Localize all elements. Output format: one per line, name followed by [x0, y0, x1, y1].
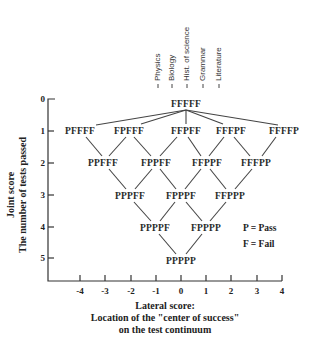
x-tick-neg4: -4	[76, 286, 84, 296]
node-PPFFF: PPFFF	[88, 158, 118, 168]
x-tick-neg1: -1	[152, 286, 160, 296]
node-PFFFF: PFFFF	[65, 126, 95, 136]
subject-label-grammar: Grammar	[198, 47, 207, 81]
subject-label-biology: Biology	[167, 55, 176, 81]
subject-label-history-of-science: Hist. of science	[182, 27, 191, 81]
y-tick-5: 5	[41, 253, 46, 263]
node-FFPPF: FFPPF	[192, 158, 222, 168]
x-tick-1: 1	[204, 286, 209, 296]
x-axis-label-line3: on the test continuum	[0, 324, 312, 336]
node-FFPFF: FFPFF	[171, 126, 201, 136]
node-FFFFF: FFFFF	[171, 99, 201, 109]
x-tick-2: 2	[229, 286, 234, 296]
node-PPPFF: PPPFF	[115, 191, 145, 201]
node-FFPPP: FFPPP	[215, 191, 245, 201]
x-axis-label-line2: Location of the "center of success"	[0, 312, 312, 324]
x-tick-neg3: -3	[101, 286, 109, 296]
x-tick-4: 4	[280, 286, 285, 296]
node-FFFFP: FFFFP	[269, 126, 299, 136]
node-FPPPP: FPPPP	[191, 223, 221, 233]
y-axis-label-line1: Joint score	[5, 120, 17, 270]
y-tick-3: 3	[41, 190, 46, 200]
y-tick-0: 0	[41, 94, 46, 104]
y-tick-1: 1	[41, 126, 46, 136]
x-tick-3: 3	[255, 286, 260, 296]
node-FPFFF: FPFFF	[114, 126, 144, 136]
x-axis-label: Lateral score: Location of the "center o…	[0, 300, 312, 336]
node-PPPPP: PPPPP	[166, 256, 196, 266]
node-FPPFF: FPPFF	[141, 158, 171, 168]
node-PPPPF: PPPPF	[140, 223, 170, 233]
x-axis-label-line1: Lateral score:	[0, 300, 312, 312]
subject-label-literature: Literature	[214, 47, 223, 81]
node-FPPPF: FPPPF	[166, 191, 196, 201]
x-tick-neg2: -2	[127, 286, 135, 296]
y-axis-label-line2: The number of tests passed	[17, 120, 29, 270]
y-axis-label: Joint score The number of tests passed	[5, 120, 29, 270]
y-tick-4: 4	[41, 222, 46, 232]
node-FFFPF: FFFPF	[216, 126, 246, 136]
y-tick-2: 2	[41, 158, 46, 168]
subject-label-physics: Physics	[153, 53, 162, 81]
legend-fail: F = Fail	[243, 239, 274, 249]
x-tick-0: 0	[179, 286, 184, 296]
legend-pass: P = Pass	[243, 223, 276, 233]
node-FFFPP: FFFPP	[241, 158, 271, 168]
